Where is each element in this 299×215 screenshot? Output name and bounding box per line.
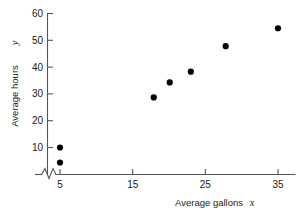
y-axis-title-variable: y xyxy=(9,40,20,46)
x-axis-ticks xyxy=(60,169,278,175)
data-point xyxy=(275,25,281,31)
data-point xyxy=(223,43,229,49)
data-point xyxy=(151,94,157,100)
data-point xyxy=(188,69,194,75)
y-axis-title: Average hours y xyxy=(9,40,20,126)
x-axis-title: Average gallons x xyxy=(175,197,255,208)
x-axis-break-icon xyxy=(42,169,57,179)
scatter-plot-figure: 60 50 40 30 20 10 5 15 25 35 Average hou… xyxy=(0,0,299,215)
data-point xyxy=(57,144,63,150)
x-axis-title-text: Average gallons xyxy=(175,197,243,208)
x-tick-label-15: 15 xyxy=(127,179,139,190)
plot-canvas: 60 50 40 30 20 10 5 15 25 35 Average hou… xyxy=(0,0,299,215)
x-tick-label-35: 35 xyxy=(272,179,284,190)
data-point xyxy=(57,159,63,165)
y-axis-tick-labels: 60 50 40 30 20 10 xyxy=(32,8,44,153)
y-tick-label-30: 30 xyxy=(32,88,44,99)
y-tick-label-20: 20 xyxy=(32,115,44,126)
x-axis-tick-labels: 5 15 25 35 xyxy=(57,179,284,190)
x-tick-label-5: 5 xyxy=(57,179,63,190)
y-tick-label-40: 40 xyxy=(32,62,44,73)
y-tick-label-10: 10 xyxy=(32,142,44,153)
y-tick-label-50: 50 xyxy=(32,35,44,46)
y-axis-ticks xyxy=(48,14,54,148)
data-points-layer xyxy=(57,25,281,165)
data-point xyxy=(167,79,173,85)
x-axis-title-variable: x xyxy=(249,197,255,208)
y-axis-title-text: Average hours xyxy=(9,65,20,127)
y-tick-label-60: 60 xyxy=(32,8,44,19)
x-tick-label-25: 25 xyxy=(200,179,212,190)
